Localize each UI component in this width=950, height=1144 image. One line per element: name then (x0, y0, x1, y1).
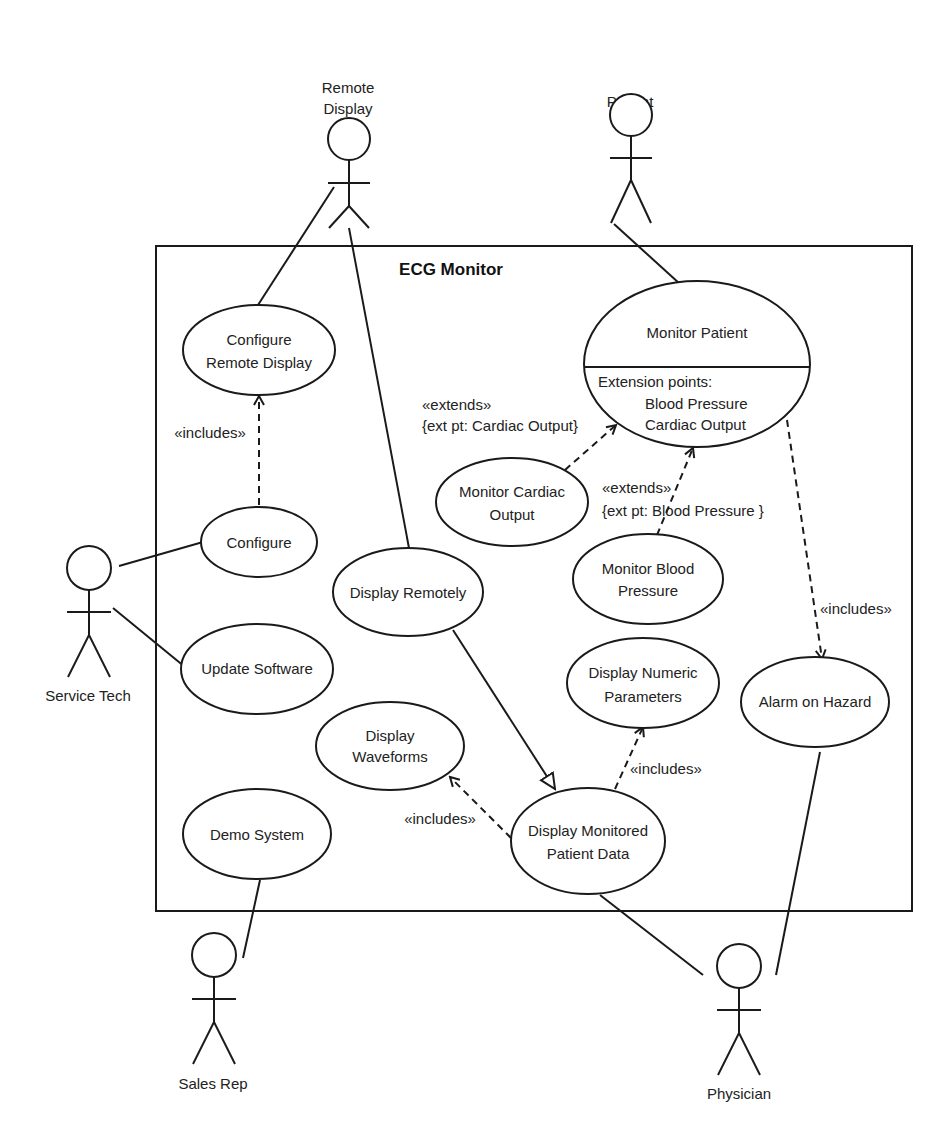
assoc-tech-update (113, 608, 185, 667)
use-case-label: Demo System (210, 826, 304, 843)
use-case-label-line1: Configure (226, 331, 291, 348)
use-case-configure[interactable]: Configure (201, 507, 317, 577)
actor-patient[interactable]: Patient (607, 93, 655, 223)
stick-figure-icon (67, 546, 111, 677)
includes-waveforms (450, 777, 511, 838)
includes-label: «includes» (174, 424, 246, 441)
use-case-label-line2: Patient Data (547, 845, 630, 862)
extension-point-constraint: {ext pt: Blood Pressure } (602, 502, 764, 519)
use-case-diagram: ECG Monitor Remote Display (0, 0, 950, 1144)
use-case-label: Alarm on Hazard (759, 693, 872, 710)
actor-label: Sales Rep (178, 1075, 247, 1092)
extends-label: «extends» (422, 396, 491, 413)
use-case-label-line2: Pressure (618, 582, 678, 599)
use-case-display-remotely[interactable]: Display Remotely (333, 548, 483, 636)
stick-figure-icon (192, 933, 236, 1064)
extension-point-constraint: {ext pt: Cardiac Output} (422, 417, 578, 434)
extension-point: Cardiac Output (645, 416, 747, 433)
use-case-label-line2: Parameters (604, 688, 682, 705)
extends-label: «extends» (602, 479, 671, 496)
includes-label: «includes» (404, 810, 476, 827)
use-case-configure-remote-display[interactable]: Configure Remote Display (183, 305, 335, 395)
use-case-label-line2: Remote Display (206, 354, 312, 371)
includes-label: «includes» (630, 760, 702, 777)
use-case-label-line1: Display Numeric (588, 664, 698, 681)
assoc-demo-sales (243, 880, 260, 958)
assoc-alarm-physician (776, 752, 820, 975)
actor-label-line2: Display (323, 100, 373, 117)
actor-sales-rep[interactable]: Sales Rep (178, 933, 247, 1092)
assoc-patient-monitor (614, 224, 680, 284)
includes-numeric (615, 727, 643, 789)
actor-label-line1: Remote (322, 79, 375, 96)
use-case-label-line2: Output (489, 506, 535, 523)
actor-label: Service Tech (45, 687, 131, 704)
includes-alarm (787, 420, 822, 659)
use-case-update-software[interactable]: Update Software (181, 624, 333, 714)
use-case-monitor-cardiac-output[interactable]: Monitor Cardiac Output (436, 458, 588, 546)
extension-point: Blood Pressure (645, 395, 748, 412)
use-case-label: Configure (226, 534, 291, 551)
use-case-display-monitored-patient-data[interactable]: Display Monitored Patient Data (511, 788, 665, 894)
use-case-label-line1: Monitor Blood (602, 560, 695, 577)
use-case-display-waveforms[interactable]: Display Waveforms (316, 702, 464, 790)
stick-figure-icon (717, 944, 761, 1075)
actor-remote-display[interactable]: Remote Display (322, 79, 375, 228)
stick-figure-icon (328, 118, 370, 228)
use-case-label-line1: Monitor Cardiac (459, 483, 565, 500)
use-case-label-line2: Waveforms (352, 748, 427, 765)
use-case-label-line1: Display (365, 727, 415, 744)
actor-service-tech[interactable]: Service Tech (45, 546, 131, 704)
includes-label: «includes» (820, 600, 892, 617)
assoc-tech-configure (119, 542, 203, 566)
generalization-display-remotely (453, 630, 555, 789)
assoc-dmpd-physician (600, 895, 703, 975)
use-case-label: Update Software (201, 660, 313, 677)
extension-points-header: Extension points: (598, 373, 712, 390)
use-case-monitor-patient[interactable]: Monitor Patient Extension points: Blood … (584, 281, 810, 447)
stick-figure-icon (610, 94, 652, 223)
use-case-label-line1: Display Monitored (528, 822, 648, 839)
use-case-demo-system[interactable]: Demo System (183, 789, 331, 879)
use-case-label: Display Remotely (350, 584, 467, 601)
use-case-monitor-blood-pressure[interactable]: Monitor Blood Pressure (573, 534, 723, 624)
actor-label: Physician (707, 1085, 771, 1102)
use-case-title: Monitor Patient (647, 324, 749, 341)
use-case-alarm-on-hazard[interactable]: Alarm on Hazard (741, 657, 889, 747)
system-title: ECG Monitor (399, 260, 503, 279)
use-case-display-numeric-parameters[interactable]: Display Numeric Parameters (567, 638, 719, 728)
actor-physician[interactable]: Physician (707, 944, 771, 1102)
